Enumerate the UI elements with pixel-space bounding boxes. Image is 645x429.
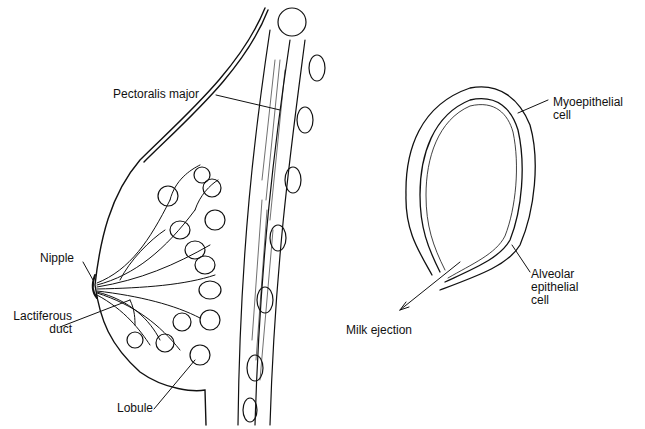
diagram-drawing <box>0 0 645 429</box>
label-alv-line3: cell <box>531 294 578 307</box>
label-lactiferous-line2: duct <box>12 323 72 336</box>
leader-nipple <box>83 262 93 280</box>
lobules <box>127 167 225 365</box>
label-pectoralis-major: Pectoralis major <box>113 88 199 101</box>
leader-myoepithelial <box>518 100 548 113</box>
label-myo-line2: cell <box>553 109 623 122</box>
label-alveolar-epithelial-cell: Alveolar epithelial cell <box>531 268 578 307</box>
leader-lobule <box>154 360 195 409</box>
alveolus <box>406 87 535 290</box>
label-myoepithelial-cell: Myoepithelial cell <box>553 96 623 122</box>
label-lactiferous-duct: Lactiferous duct <box>12 310 72 336</box>
diagram-canvas: Pectoralis major Nipple Lactiferous duct… <box>0 0 645 429</box>
label-lobule: Lobule <box>117 402 153 415</box>
leader-alveolar <box>512 245 530 272</box>
label-nipple: Nipple <box>40 252 74 265</box>
pectoralis-major-muscle <box>238 30 305 425</box>
label-milk-ejection: Milk ejection <box>346 324 412 337</box>
